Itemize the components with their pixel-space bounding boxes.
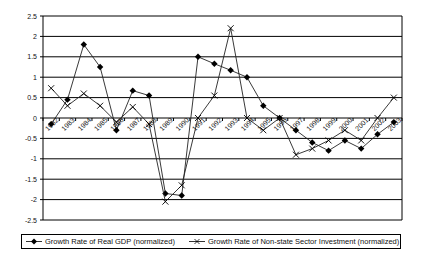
- legend-item-investment: Growth Rate of Non-state Sector Investme…: [189, 237, 399, 246]
- y-tick-label: 1.5: [27, 53, 37, 60]
- y-tick-label: -0.5: [25, 135, 37, 142]
- legend-label-gdp: Growth Rate of Real GDP (normalized): [45, 237, 175, 246]
- x-tick-label: 1993: [223, 116, 239, 132]
- x-marker-icon: [189, 237, 205, 246]
- investment-line: [51, 28, 394, 201]
- gdp-data-point: [130, 87, 136, 93]
- x-tick-label: 1984: [76, 116, 92, 132]
- gdp-data-point: [325, 147, 331, 153]
- x-tick-label: 1985: [93, 116, 109, 132]
- y-tick-label: -1: [31, 155, 37, 162]
- y-tick-label: -1.5: [25, 176, 37, 183]
- x-tick-label: 1999: [321, 116, 337, 132]
- y-tick-label: 1: [33, 74, 37, 81]
- gdp-data-point: [195, 54, 201, 60]
- legend-label-investment: Growth Rate of Non-state Sector Investme…: [208, 237, 399, 246]
- y-tick-label: 2.5: [27, 13, 37, 20]
- gdp-data-point: [179, 192, 185, 198]
- y-tick-label: 0: [33, 115, 37, 122]
- y-tick-label: 0.5: [27, 94, 37, 101]
- x-tick-label: 1990: [174, 116, 190, 132]
- x-tick-label: 2001: [354, 116, 370, 132]
- gdp-data-point: [227, 67, 233, 73]
- chart-legend: Growth Rate of Real GDP (normalized) Gro…: [21, 234, 401, 249]
- gdp-data-point: [97, 64, 103, 70]
- gdp-data-point: [244, 74, 250, 80]
- x-tick-label: 1998: [305, 116, 321, 132]
- x-tick-label: 1992: [207, 116, 223, 132]
- y-tick-label: -2.5: [25, 217, 37, 224]
- gdp-data-point: [211, 61, 217, 67]
- y-tick-label: -2: [31, 196, 37, 203]
- x-tick-label: 1987: [125, 116, 141, 132]
- gdp-data-point: [81, 41, 87, 47]
- y-tick-label: 2: [33, 33, 37, 40]
- x-tick-label: 1983: [60, 116, 76, 132]
- diamond-marker-icon: [26, 237, 42, 246]
- legend-item-gdp: Growth Rate of Real GDP (normalized): [26, 237, 175, 246]
- line-chart: 2.521.510.50-0.5-1-1.5-2-2.5198219831984…: [0, 0, 423, 232]
- x-tick-label: 1989: [158, 116, 174, 132]
